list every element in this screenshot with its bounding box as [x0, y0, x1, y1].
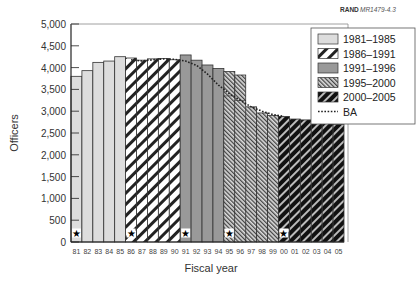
source-code: MR1479-4.3 [360, 6, 396, 13]
x-tick-label: 95 [225, 248, 233, 255]
source-brand: RAND [340, 6, 359, 13]
y-tick-label: 1,000 [41, 193, 66, 204]
legend-swatch [318, 92, 338, 102]
y-tick-label: 5,000 [41, 19, 66, 30]
x-tick-label: 85 [116, 248, 124, 255]
x-tick-label: 94 [215, 248, 223, 255]
x-tick-label: 83 [94, 248, 102, 255]
legend-swatch [318, 78, 338, 88]
bar-03 [311, 121, 322, 242]
x-tick-label: 03 [313, 248, 321, 255]
x-axis-label: Fiscal year [184, 262, 238, 274]
y-tick-label: 2,500 [41, 128, 66, 139]
x-tick-label: 88 [149, 248, 157, 255]
bar-93 [202, 65, 213, 242]
overlay-bar [235, 100, 246, 242]
legend-label: 1981–1985 [343, 33, 396, 45]
x-tick-label: 84 [105, 248, 113, 255]
y-tick-label: 0 [60, 237, 66, 248]
bar-98 [257, 113, 268, 242]
x-tick-label: 01 [291, 248, 299, 255]
bars-group [71, 55, 344, 242]
star-icon: ★ [279, 228, 288, 239]
bar-91 [180, 55, 191, 242]
y-tick-label: 3,500 [41, 84, 66, 95]
bar-94 [213, 68, 224, 242]
x-tick-label: 92 [193, 248, 201, 255]
star-icon: ★ [127, 228, 136, 239]
legend: 1981–19851986–19911991–19961995–20002000… [311, 28, 415, 124]
bar-92 [191, 60, 202, 242]
x-tick-label: 91 [182, 248, 190, 255]
x-tick-label: 96 [236, 248, 244, 255]
bar-87 [137, 60, 148, 242]
bar-90 [169, 60, 180, 242]
bar-01 [289, 119, 300, 242]
star-icon: ★ [225, 228, 234, 239]
x-tick-label: 89 [160, 248, 168, 255]
bar-02 [300, 120, 311, 242]
x-tick-label: 86 [127, 248, 135, 255]
bar-99 [268, 116, 279, 242]
x-tick-label: 90 [171, 248, 179, 255]
y-tick-label: 2,000 [41, 150, 66, 161]
legend-label: 1995–2000 [343, 77, 396, 89]
y-tick-label: 1,500 [41, 172, 66, 183]
x-tick-label: 93 [204, 248, 212, 255]
x-tick-label: 81 [73, 248, 81, 255]
bar-82 [82, 71, 93, 242]
x-tick-label: 00 [280, 248, 288, 255]
bar-04 [322, 123, 333, 242]
bar-83 [93, 62, 104, 242]
y-axis-label: Officers [8, 114, 20, 152]
chart-container: ★★★★★ 05001,0001,5002,0002,5003,0003,500… [0, 0, 419, 289]
bar-05 [333, 124, 344, 242]
legend-label: BA [343, 106, 357, 118]
x-tick-label: 02 [302, 248, 310, 255]
bar-97 [246, 107, 257, 242]
x-tick-label: 82 [83, 248, 91, 255]
bar-81 [71, 76, 82, 242]
star-icon: ★ [72, 228, 81, 239]
legend-label: 1991–1996 [343, 62, 396, 74]
x-tick-label: 05 [335, 248, 343, 255]
x-tick-label: 04 [324, 248, 332, 255]
x-tick-label: 87 [138, 248, 146, 255]
bar-85 [115, 57, 126, 242]
overlay-group [224, 96, 246, 242]
bar-chart: ★★★★★ 05001,0001,5002,0002,5003,0003,500… [0, 0, 419, 289]
bar-86 [126, 58, 137, 242]
x-tick-label: 99 [269, 248, 277, 255]
legend-label: 2000–2005 [343, 91, 396, 103]
legend-swatch [318, 63, 338, 73]
star-icon: ★ [181, 228, 190, 239]
y-tick-label: 3,000 [41, 106, 66, 117]
x-tick-label: 98 [258, 248, 266, 255]
overlay-bar [224, 96, 235, 242]
legend-label: 1986–1991 [343, 48, 396, 60]
y-tick-label: 500 [49, 215, 66, 226]
legend-swatch [318, 34, 338, 44]
y-tick-label: 4,000 [41, 63, 66, 74]
x-tick-label: 97 [247, 248, 255, 255]
bar-88 [147, 59, 158, 242]
y-tick-label: 4,500 [41, 41, 66, 52]
legend-swatch [318, 49, 338, 59]
bar-84 [104, 61, 115, 242]
bar-89 [158, 58, 169, 242]
bar-00 [278, 116, 289, 242]
